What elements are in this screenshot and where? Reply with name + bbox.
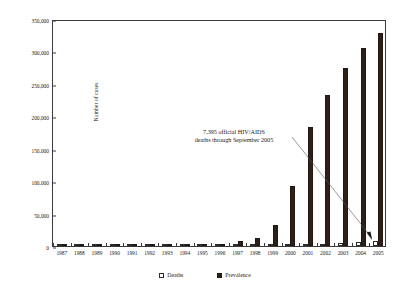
y-tick-mark <box>53 53 56 54</box>
x-tick-label: 1998 <box>250 250 261 256</box>
bar-group <box>211 244 229 246</box>
y-tick-label: 0 <box>46 245 53 251</box>
y-tick-mark <box>53 21 56 22</box>
bar-prevalence-1990[interactable] <box>115 244 120 246</box>
bar-prevalence-2002[interactable] <box>325 95 330 246</box>
bar-group <box>176 244 194 246</box>
x-tick-label: 2005 <box>373 250 384 256</box>
y-tick-mark <box>53 118 56 119</box>
x-tick-label: 1988 <box>74 250 85 256</box>
deaths-callout-line1: 7,395 official HIV/AIDS <box>176 128 292 136</box>
bar-group <box>299 127 317 246</box>
bar-prevalence-2003[interactable] <box>343 68 348 246</box>
bar-group <box>71 244 89 246</box>
bar-group <box>369 33 387 246</box>
bar-group <box>123 244 141 246</box>
bar-group <box>106 244 124 246</box>
hiv-aids-prevalence-chart: Number of cases 050,000100,000150,000200… <box>0 0 410 293</box>
bar-group <box>194 244 212 246</box>
bar-group <box>229 241 247 246</box>
x-tick-label: 1999 <box>267 250 278 256</box>
bar-group <box>141 244 159 246</box>
y-tick-label: 200,000 <box>31 115 53 121</box>
x-tick-label: 1994 <box>179 250 190 256</box>
bar-prevalence-2001[interactable] <box>308 127 313 246</box>
bar-prevalence-2005[interactable] <box>378 33 383 246</box>
x-tick-label: 1993 <box>162 250 173 256</box>
bar-prevalence-1988[interactable] <box>79 244 84 246</box>
x-tick-label: 2002 <box>320 250 331 256</box>
legend-label-deaths: Deaths <box>167 272 183 278</box>
x-tick-label: 1990 <box>109 250 120 256</box>
y-tick-label: 100,000 <box>31 180 53 186</box>
y-tick-mark <box>53 183 56 184</box>
chart-legend: Deaths Prevalence <box>0 272 410 278</box>
x-tick-label: 1997 <box>232 250 243 256</box>
y-tick-label: 50,000 <box>34 213 53 219</box>
bar-group <box>264 225 282 246</box>
x-tick-label: 1995 <box>197 250 208 256</box>
bar-group <box>317 95 335 246</box>
bar-prevalence-1994[interactable] <box>185 244 190 246</box>
bar-group <box>352 48 370 246</box>
bar-prevalence-1997[interactable] <box>238 241 243 246</box>
x-tick-label: 2001 <box>303 250 314 256</box>
bar-group <box>282 186 300 246</box>
y-tick-label: 300,000 <box>31 50 53 56</box>
bar-group <box>246 238 264 246</box>
bar-group <box>158 244 176 246</box>
y-tick-mark <box>53 150 56 151</box>
bar-group <box>53 244 71 246</box>
y-tick-label: 350,000 <box>31 18 53 24</box>
y-tick-mark <box>53 215 56 216</box>
open-square-icon <box>159 273 164 278</box>
legend-label-prevalence: Prevalence <box>225 272 250 278</box>
x-tick-label: 1992 <box>144 250 155 256</box>
y-tick-label: 250,000 <box>31 83 53 89</box>
bar-prevalence-1989[interactable] <box>97 244 102 246</box>
x-tick-label: 1987 <box>56 250 67 256</box>
y-axis-title: Number of cases <box>93 37 99 167</box>
legend-item-prevalence[interactable]: Prevalence <box>217 272 250 278</box>
y-tick-mark <box>53 248 56 249</box>
bar-prevalence-1992[interactable] <box>150 244 155 246</box>
x-tick-label: 1991 <box>127 250 138 256</box>
bar-prevalence-1999[interactable] <box>273 225 278 246</box>
bar-prevalence-1996[interactable] <box>220 244 225 246</box>
x-tick-label: 2000 <box>285 250 296 256</box>
bar-prevalence-1993[interactable] <box>167 244 172 246</box>
bar-prevalence-2000[interactable] <box>290 186 295 246</box>
x-tick-label: 2003 <box>338 250 349 256</box>
bar-group <box>88 244 106 246</box>
deaths-callout-annotation: 7,395 official HIV/AIDS deaths through S… <box>176 128 292 145</box>
legend-item-deaths[interactable]: Deaths <box>159 272 183 278</box>
bar-group <box>334 68 352 246</box>
deaths-callout-line2: deaths through September 2005 <box>176 136 292 144</box>
filled-square-icon <box>217 273 222 278</box>
x-tick-label: 1996 <box>215 250 226 256</box>
x-tick-label: 1989 <box>92 250 103 256</box>
y-tick-mark <box>53 85 56 86</box>
bar-prevalence-2004[interactable] <box>361 48 366 246</box>
bar-prevalence-1987[interactable] <box>62 244 67 246</box>
y-tick-label: 150,000 <box>31 148 53 154</box>
bar-prevalence-1998[interactable] <box>255 238 260 246</box>
x-tick-label: 2004 <box>355 250 366 256</box>
bar-prevalence-1991[interactable] <box>132 244 137 246</box>
bar-prevalence-1995[interactable] <box>202 244 207 246</box>
